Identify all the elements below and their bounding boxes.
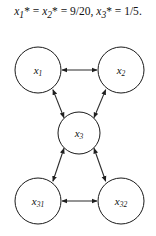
edge-x3-x1 (53, 90, 64, 118)
node-x1-sub: 1 (39, 69, 43, 78)
caption-value-x12: 9/20 (70, 5, 90, 17)
node-x3-sub: 3 (79, 132, 84, 141)
caption-comma: , (91, 5, 94, 17)
figure-caption: x1* = x2* = 9/20, x3* = 1/5. (0, 4, 156, 22)
edge-x3-x31 (53, 148, 64, 181)
figure-page: x1* = x2* = 9/20, x3* = 1/5. (0, 0, 156, 236)
caption-equals-1: = (33, 5, 40, 17)
node-x32[interactable]: x32 (98, 178, 144, 224)
caption-equals-2: = (61, 5, 68, 17)
graph-container: x1 x2 x3 (0, 24, 156, 236)
node-x2-sub: 2 (122, 69, 126, 78)
caption-value-x3: 1/5 (124, 5, 139, 17)
caption-x3-star: * (106, 5, 112, 17)
caption-period: . (139, 5, 142, 17)
edge-x3-x32 (94, 148, 106, 181)
node-x31-sub: 31 (36, 200, 45, 209)
node-x31[interactable]: x31 (15, 178, 61, 224)
edge-x3-x2 (94, 90, 106, 118)
node-x32-sub: 32 (119, 200, 128, 209)
graph-nodes: x1 x2 x3 (15, 47, 144, 224)
caption-x2-star: * (52, 5, 58, 17)
caption-equals-3: = (115, 5, 122, 17)
graph-svg: x1 x2 x3 (0, 24, 156, 236)
caption-x1-star: * (24, 5, 30, 17)
node-x3[interactable]: x3 (58, 112, 100, 154)
node-x2[interactable]: x2 (98, 47, 144, 93)
node-x1[interactable]: x1 (15, 47, 61, 93)
